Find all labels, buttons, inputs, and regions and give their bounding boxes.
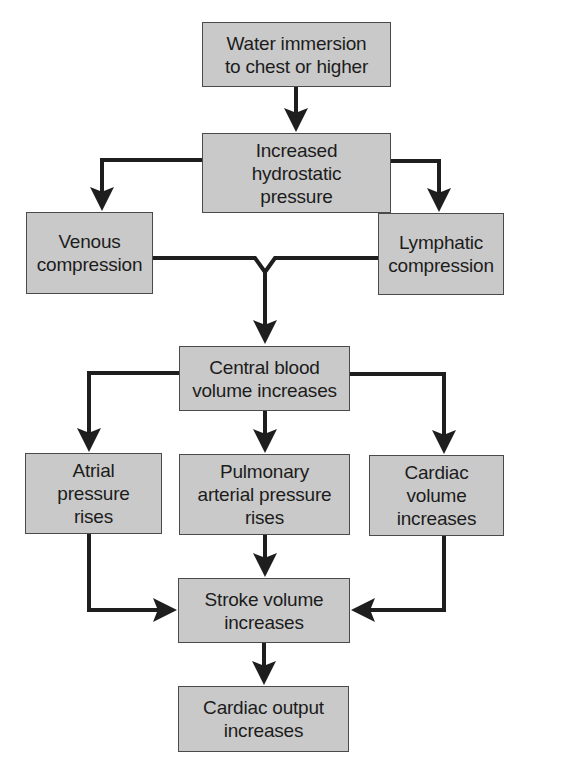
arrow-central-to-cardiac-volume bbox=[350, 374, 444, 450]
node-cardiac-output: Cardiac output increases bbox=[178, 686, 349, 752]
node-lymphatic-compression: Lymphatic compression bbox=[378, 213, 504, 295]
node-atrial-pressure: Atrial pressure rises bbox=[25, 453, 162, 534]
node-water-immersion: Water immersion to chest or higher bbox=[202, 22, 391, 87]
line-venous-merge bbox=[153, 258, 265, 272]
arrow-atrial-to-stroke bbox=[89, 534, 173, 610]
node-central-blood-volume: Central blood volume increases bbox=[179, 346, 350, 411]
arrow-cardiac-volume-to-stroke bbox=[355, 536, 444, 610]
arrow-hydrostatic-to-venous bbox=[102, 160, 202, 207]
arrow-hydrostatic-to-lymphatic bbox=[391, 161, 439, 208]
node-increased-hydrostatic-pressure: Increased hydrostatic pressure bbox=[202, 133, 391, 213]
node-cardiac-volume: Cardiac volume increases bbox=[369, 455, 504, 536]
arrow-central-to-atrial bbox=[89, 373, 179, 448]
node-stroke-volume: Stroke volume increases bbox=[178, 578, 350, 643]
line-lymphatic-merge bbox=[265, 258, 378, 272]
node-venous-compression: Venous compression bbox=[26, 212, 153, 294]
node-pulmonary-arterial-pressure: Pulmonary arterial pressure rises bbox=[179, 454, 350, 535]
